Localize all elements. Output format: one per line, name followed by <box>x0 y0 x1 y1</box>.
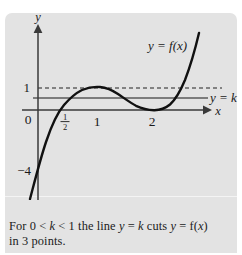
figure-root: 1 −4 0 1 2 1 2 y x y = f(x) y = k <box>0 0 242 255</box>
fraction-denominator: 2 <box>63 122 67 132</box>
figure-caption: For 0 < k < 1 the line y = k cuts y = f(… <box>9 219 233 249</box>
caption-line-2: in 3 points. <box>9 234 233 249</box>
y-tick-label-1: 1 <box>24 80 31 95</box>
caption-k-1: k <box>46 219 58 233</box>
caption-cuts: cuts <box>144 219 171 233</box>
y-tick-label-minus-4: −4 <box>17 163 31 178</box>
caption-eq-2: = f( <box>176 219 198 233</box>
graph-svg: 1 −4 0 1 2 1 2 y x y = f(x) y = k <box>0 0 242 200</box>
caption-text-a: For 0 <box>9 219 39 233</box>
graph-plot: 1 −4 0 1 2 1 2 y x y = f(x) y = k <box>0 0 242 200</box>
x-axis-name: x <box>214 104 221 118</box>
fraction-numerator: 1 <box>63 112 67 122</box>
caption-eq-1: = <box>125 219 138 233</box>
function-annotation: y = f(x) <box>146 38 187 53</box>
curve-y-equals-fx <box>30 33 199 199</box>
x-tick-label-1: 1 <box>94 114 101 129</box>
x-axis-arrow-icon <box>203 106 212 115</box>
origin-label: 0 <box>25 112 32 127</box>
line-k-annotation: y = k <box>208 90 237 105</box>
x-tick-label-one-half: 1 2 <box>61 112 70 132</box>
caption-close-paren: ) <box>204 219 208 233</box>
y-axis-name: y <box>33 10 41 24</box>
caption-text-b: 1 the line <box>65 219 119 233</box>
x-tick-label-2: 2 <box>149 114 156 129</box>
y-axis-arrow-icon <box>34 24 43 33</box>
